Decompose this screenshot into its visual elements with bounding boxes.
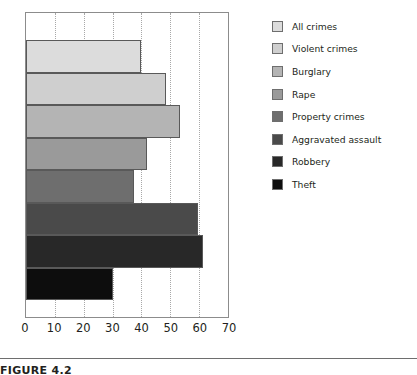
plot-area <box>25 12 229 318</box>
legend-item[interactable]: Theft <box>272 173 417 196</box>
bar-row <box>26 73 228 106</box>
caption-divider <box>0 358 417 359</box>
bar-row <box>26 170 228 203</box>
figure-container: 010203040506070 All crimesViolent crimes… <box>0 0 417 375</box>
bar-row <box>26 40 228 73</box>
legend-label: Burglary <box>292 66 331 77</box>
legend-item[interactable]: Burglary <box>272 60 417 83</box>
bar[interactable] <box>26 40 141 73</box>
x-tick-label: 60 <box>193 321 208 335</box>
legend-swatch-icon <box>272 66 283 77</box>
bar-row <box>26 138 228 171</box>
bar-row <box>26 203 228 236</box>
x-tick-label: 50 <box>163 321 178 335</box>
bars-layer <box>26 40 228 300</box>
legend-item[interactable]: Rape <box>272 83 417 106</box>
x-tick-label: 40 <box>134 321 149 335</box>
legend-swatch-icon <box>272 134 283 145</box>
bar[interactable] <box>26 105 180 138</box>
legend-swatch-icon <box>272 156 283 167</box>
legend-label: All crimes <box>292 21 337 32</box>
x-tick-label: 30 <box>105 321 120 335</box>
bar-row <box>26 235 228 268</box>
legend-label: Theft <box>292 179 316 190</box>
legend-swatch-icon <box>272 179 283 190</box>
bar[interactable] <box>26 170 134 203</box>
legend-swatch-icon <box>272 111 283 122</box>
bar[interactable] <box>26 73 166 106</box>
x-tick-label: 20 <box>76 321 91 335</box>
legend-item[interactable]: All crimes <box>272 15 417 38</box>
figure-caption: FIGURE 4.2 <box>0 364 72 375</box>
x-tick-label: 10 <box>47 321 62 335</box>
legend-swatch-icon <box>272 89 283 100</box>
legend-item[interactable]: Aggravated assault <box>272 128 417 151</box>
bar[interactable] <box>26 268 113 301</box>
x-axis: 010203040506070 <box>25 321 229 341</box>
legend-label: Robbery <box>292 156 330 167</box>
chart-legend: All crimesViolent crimesBurglaryRapeProp… <box>272 15 417 196</box>
bar-row <box>26 268 228 301</box>
legend-label: Rape <box>292 89 315 100</box>
legend-swatch-icon <box>272 21 283 32</box>
x-tick-label: 70 <box>222 321 237 335</box>
legend-label: Violent crimes <box>292 43 358 54</box>
legend-item[interactable]: Robbery <box>272 151 417 174</box>
legend-swatch-icon <box>272 43 283 54</box>
bar[interactable] <box>26 235 203 268</box>
legend-item[interactable]: Violent crimes <box>272 38 417 61</box>
x-tick-label: 0 <box>21 321 28 335</box>
legend-item[interactable]: Property crimes <box>272 105 417 128</box>
legend-label: Aggravated assault <box>292 134 381 145</box>
legend-label: Property crimes <box>292 111 365 122</box>
bar[interactable] <box>26 138 147 171</box>
bar[interactable] <box>26 203 198 236</box>
bar-row <box>26 105 228 138</box>
